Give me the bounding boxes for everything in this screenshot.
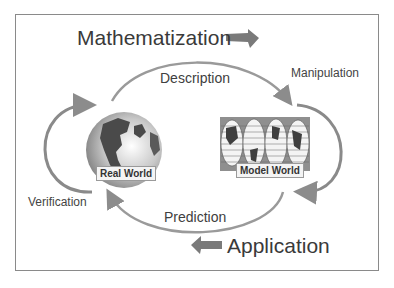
real-world-label: Real World: [96, 166, 156, 181]
prediction-label: Prediction: [164, 209, 226, 225]
verification-label: Verification: [28, 195, 87, 209]
description-label: Description: [160, 70, 230, 86]
verification-arrow: [45, 105, 92, 192]
application-heading: Application: [227, 234, 330, 258]
model-world-label: Model World: [236, 163, 304, 178]
application-block-arrow: [191, 236, 222, 254]
manipulation-label: Manipulation: [291, 66, 359, 80]
mathematization-heading: Mathematization: [77, 26, 231, 50]
